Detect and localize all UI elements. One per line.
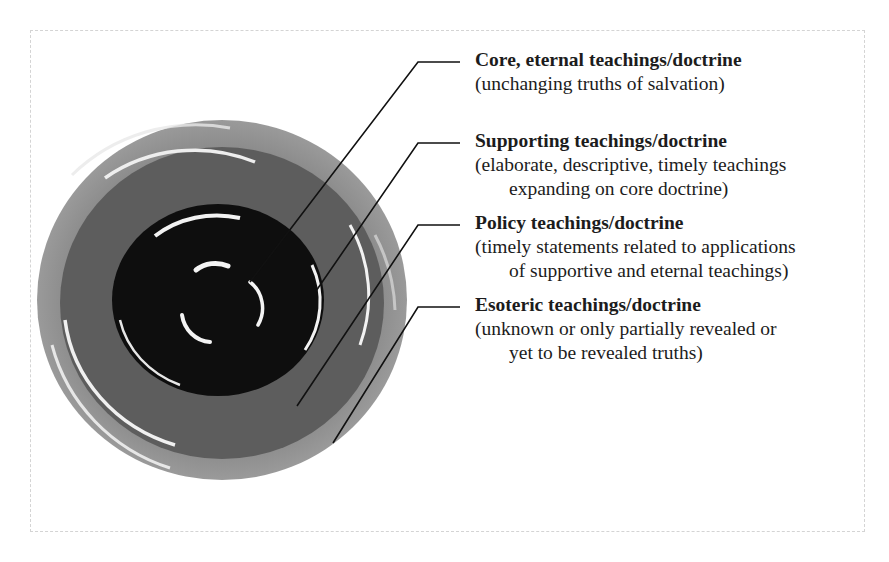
label-core: Core, eternal teachings/doctrine (unchan…: [475, 48, 742, 96]
label-supporting: Supporting teachings/doctrine (elaborate…: [475, 129, 786, 201]
label-supporting-title: Supporting teachings/doctrine: [475, 129, 786, 153]
label-core-title: Core, eternal teachings/doctrine: [475, 48, 742, 72]
label-policy-title: Policy teachings/doctrine: [475, 211, 796, 235]
label-esoteric: Esoteric teachings/doctrine (unknown or …: [475, 293, 777, 365]
label-core-desc: (unchanging truths of salvation): [475, 72, 742, 96]
label-policy: Policy teachings/doctrine (timely statem…: [475, 211, 796, 283]
label-supporting-desc: (elaborate, descriptive, timely teaching…: [475, 153, 786, 177]
ring-supporting: [112, 204, 324, 396]
label-esoteric-title: Esoteric teachings/doctrine: [475, 293, 777, 317]
label-policy-desc: (timely statements related to applicatio…: [475, 235, 796, 259]
label-supporting-desc-cont: expanding on core doctrine): [475, 177, 786, 201]
label-policy-desc-cont: of supportive and eternal teachings): [475, 259, 796, 283]
label-esoteric-desc-cont: yet to be revealed truths): [475, 341, 777, 365]
label-esoteric-desc: (unknown or only partially revealed or: [475, 317, 777, 341]
